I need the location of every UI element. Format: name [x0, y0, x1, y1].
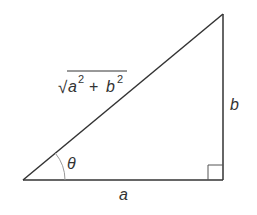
angle-label-theta: θ	[67, 155, 76, 172]
hypotenuse-label: √ a 2 + b 2	[58, 71, 127, 97]
hyp-term2-exp: 2	[117, 73, 123, 85]
angle-arc	[55, 153, 65, 180]
right-triangle-diagram: θ a b √ a 2 + b 2	[0, 0, 257, 215]
side-label-b: b	[230, 96, 239, 113]
radical-sign: √	[58, 78, 68, 97]
side-label-a: a	[119, 186, 128, 203]
hyp-term1-exp: 2	[78, 73, 84, 85]
hypotenuse	[23, 14, 223, 180]
hyp-operator: +	[89, 78, 98, 95]
hyp-term1-base: a	[68, 78, 77, 95]
right-angle-marker	[208, 165, 223, 180]
hyp-term2-base: b	[106, 78, 115, 95]
